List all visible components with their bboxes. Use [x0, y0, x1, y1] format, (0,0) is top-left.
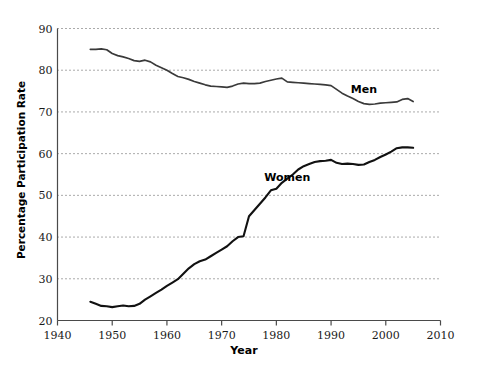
series-label-men: Men	[351, 82, 377, 95]
x-tick-label-1960: 1960	[153, 329, 181, 342]
chart-background	[0, 0, 482, 378]
x-tick-label-1940: 1940	[44, 329, 72, 342]
x-tick-label-2000: 2000	[372, 329, 400, 342]
x-tick-label-1990: 1990	[317, 329, 345, 342]
chart-figure: 2030405060708090194019501960197019801990…	[0, 0, 482, 378]
y-tick-label-70: 70	[39, 105, 53, 118]
y-tick-label-80: 80	[39, 64, 53, 77]
line-chart-canvas	[0, 0, 482, 378]
x-axis-title: Year	[230, 344, 257, 357]
x-tick-label-2010: 2010	[427, 329, 455, 342]
y-tick-label-60: 60	[39, 147, 53, 160]
x-axis-title-wrap: Year	[0, 344, 482, 357]
x-tick-label-1970: 1970	[208, 329, 236, 342]
series-label-women: Women	[264, 170, 310, 183]
y-tick-label-90: 90	[39, 22, 53, 35]
x-tick-label-1950: 1950	[98, 329, 126, 342]
y-tick-label-40: 40	[39, 231, 53, 244]
y-tick-label-50: 50	[39, 189, 53, 202]
y-tick-label-30: 30	[39, 272, 53, 285]
y-tick-label-20: 20	[39, 314, 53, 327]
x-tick-label-1980: 1980	[262, 329, 290, 342]
